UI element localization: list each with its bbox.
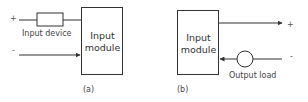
input-module-label-a: Input module: [82, 30, 123, 54]
input-device-resistor: [37, 13, 63, 26]
caption-a: (a): [83, 86, 94, 94]
module-line2-b: module: [178, 44, 219, 56]
input-module-label-b: Input module: [178, 32, 219, 56]
module-line1-a: Input: [82, 30, 123, 42]
module-line1-b: Input: [178, 32, 219, 44]
output-load-circle: [237, 51, 253, 67]
output-load-label: Output load: [229, 72, 276, 80]
minus-sign-a: -: [12, 47, 15, 55]
minus-sign-b: -: [290, 53, 293, 61]
caption-b: (b): [177, 86, 188, 94]
plus-sign-a: +: [10, 15, 17, 23]
module-line2-a: module: [82, 42, 123, 54]
diagram-canvas: [0, 0, 308, 102]
plus-sign-b: +: [287, 21, 294, 29]
input-device-label: Input device: [22, 30, 72, 38]
